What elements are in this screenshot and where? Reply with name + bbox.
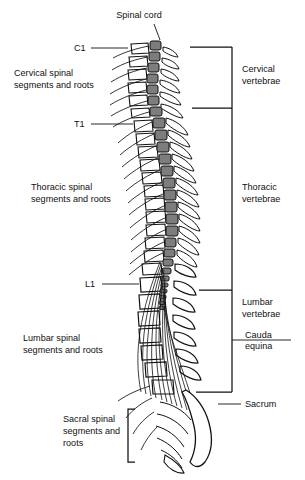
lumbar-segments-label-line2: segments and roots [23, 345, 103, 355]
thoracic-vertebrae-label-line2: vertebrae [242, 194, 280, 204]
spinal-cord-figure: Spinal cord Sacrum Cauda equina C1 T1 L1… [0, 0, 305, 480]
thoracic-vertebrae-label-line1: Thoracic [242, 182, 277, 192]
cauda-equina-label-line2: equina [245, 341, 273, 351]
cauda-equina-label-line1: Cauda [245, 330, 273, 340]
thoracic-segments-label-line2: segments and roots [31, 194, 111, 204]
sacrum [156, 390, 211, 473]
cervical-segments-label-line2: segments and roots [14, 80, 94, 90]
anatomy-illustration: Spinal cord Sacrum Cauda equina C1 T1 L1… [0, 0, 305, 480]
sacral-segments-label-line2: segments and [63, 426, 120, 436]
lumbar-vertebrae-label-line1: Lumbar [242, 297, 273, 307]
cervical-vertebrae-label-line1: Cervical [242, 64, 275, 74]
lumbar-spinous-processes [173, 264, 201, 380]
marker-l1: L1 [85, 279, 95, 289]
lumbar-segments-label-line1: Lumbar spinal [23, 333, 80, 343]
thoracic-segments-label-line1: Thoracic spinal [31, 182, 92, 192]
sacrum-label: Sacrum [245, 399, 276, 409]
lumbar-vertebrae-label-line2: vertebrae [242, 309, 280, 319]
marker-c1: C1 [74, 43, 86, 53]
vertebrae-region-brackets [190, 47, 232, 392]
spinal-cord-label: Spinal cord [116, 10, 162, 20]
sacral-segments-bracket [128, 409, 135, 462]
cervical-vertebrae-label-line2: vertebrae [242, 76, 280, 86]
cervical-spinous-processes [160, 47, 183, 118]
sacral-segments-label-line1: Sacral spinal [63, 414, 115, 424]
marker-t1: T1 [74, 119, 85, 129]
sacral-segments-label-line3: roots [63, 438, 84, 448]
cervical-segments-label-line1: Cervical spinal [14, 68, 73, 78]
